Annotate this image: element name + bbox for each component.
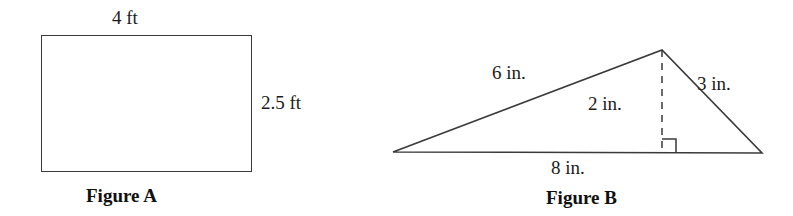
- rectangle-height-label: 2.5 ft: [261, 93, 301, 112]
- triangle-outline: [393, 50, 762, 153]
- rectangle-width-label: 4 ft: [112, 8, 138, 27]
- triangle-altitude-label: 2 in.: [588, 94, 622, 113]
- triangle-left-side-label: 6 in.: [492, 63, 526, 82]
- triangle-base-label: 8 in.: [551, 158, 585, 177]
- figure-a-group: 4 ft 2.5 ft Figure A: [0, 0, 350, 216]
- figure-worksheet-page: 4 ft 2.5 ft Figure A 6 in. 3 in. 2 in. 8…: [0, 0, 793, 216]
- figure-a-caption: Figure A: [86, 186, 157, 205]
- triangle-right-side-label: 3 in.: [697, 74, 731, 93]
- triangle-shape: [360, 0, 793, 216]
- figure-b-group: 6 in. 3 in. 2 in. 8 in. Figure B: [360, 0, 793, 216]
- figure-b-caption: Figure B: [546, 188, 617, 207]
- right-angle-marker-icon: [662, 139, 676, 153]
- rectangle-shape: [41, 35, 252, 172]
